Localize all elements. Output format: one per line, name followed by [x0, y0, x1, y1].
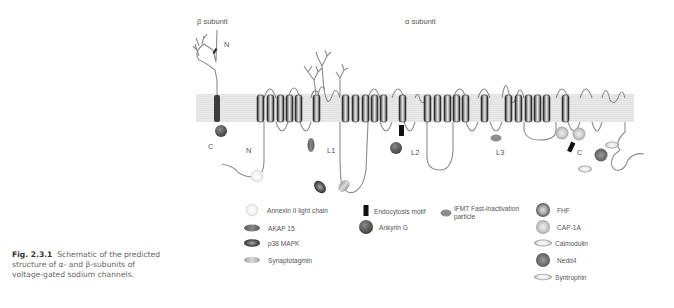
cap1a-icon: [535, 219, 551, 235]
legend-nedd4: Nedd4: [535, 252, 576, 268]
annexin-ball: [251, 170, 263, 182]
legend-annexin: Annexin II light chain: [244, 203, 328, 217]
nedd4-icon: [535, 252, 551, 268]
legend-p38: p38 MAPK: [243, 238, 300, 248]
syntrophin-icon: [533, 272, 553, 282]
legend-synaptotagmin: Synaptotagmin: [243, 255, 312, 265]
calmodulin-icon: [533, 238, 553, 248]
figure-caption: Fig. 2.3.1 Schematic of the predicted st…: [12, 250, 212, 280]
fhf-ball: [556, 127, 569, 140]
caption-line2: structure of α- and β-subunits of: [12, 260, 135, 269]
alpha-n-terminus-label: N: [246, 146, 251, 155]
beta-subunit-label: β subunit: [197, 17, 228, 26]
synaptotagmin-ellipse: [336, 178, 352, 195]
syntrophin-ellipse: [578, 166, 592, 173]
caption-line1: Schematic of the predicted: [57, 250, 160, 259]
ankyrin-g-ball: [390, 142, 402, 154]
legend-syntrophin: Syntrophin: [533, 272, 587, 282]
caption-line3: voltage-gated sodium channels.: [12, 270, 134, 279]
legend-endocytosis: Endocytosis motif: [363, 205, 426, 217]
akap15-icon: [243, 223, 261, 233]
beta-c-term-ankyrin: [215, 125, 227, 137]
synaptotagmin-icon: [243, 255, 261, 265]
beta-n-terminus-label: N: [224, 40, 229, 49]
nedd4-ball: [595, 149, 608, 162]
loop-l3-label: L3: [496, 148, 504, 157]
p38-ellipse: [312, 178, 329, 195]
p38-mapk-icon: [243, 238, 261, 248]
legend-fhf: FHF: [535, 202, 570, 218]
legend-akap15: AKAP 15: [243, 223, 295, 233]
fhf-icon: [535, 202, 551, 218]
akap15-ellipse: [308, 138, 315, 152]
alpha-c-terminus-label: C: [577, 148, 582, 157]
legend-ifmt: IFMT Fast-inactivation particle: [440, 205, 519, 221]
figure-number: Fig. 2.3.1: [12, 250, 52, 259]
legend-ankyrin: Ankyrin G: [358, 219, 408, 235]
legend-calmodulin: Calmodulin: [533, 238, 588, 248]
alpha-subunit-label: α subunit: [405, 17, 436, 26]
c-term-endocytosis-motif: [567, 142, 575, 153]
cap1a-ball: [573, 128, 586, 141]
ifmt-particle-icon: [440, 209, 452, 217]
beta-transmembrane-segment: [214, 95, 220, 122]
beta-c-terminus-label: C: [208, 142, 213, 151]
ifmt-particle: [491, 135, 502, 142]
ankyrin-g-icon: [358, 219, 374, 235]
annexin-icon: [244, 203, 260, 217]
endocytosis-motif: [399, 125, 404, 136]
calmodulin-ellipse: [605, 142, 619, 149]
loop-l2-label: L2: [411, 148, 419, 157]
legend-cap1a: CAP-1A: [535, 219, 581, 235]
endocytosis-motif-icon: [363, 205, 369, 217]
loop-l1-label: L1: [327, 146, 335, 155]
